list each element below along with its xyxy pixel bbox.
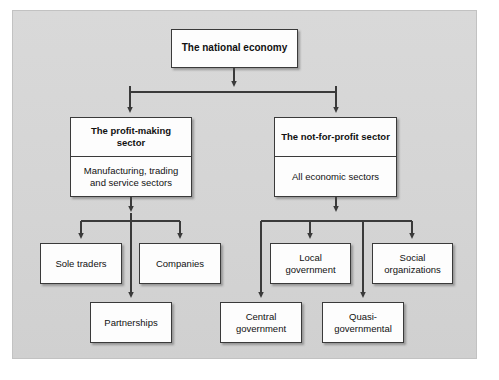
node-companies[interactable]: Companies <box>139 243 221 284</box>
node-partnerships[interactable]: Partnerships <box>90 302 172 343</box>
node-sole-traders-title: Sole traders <box>41 244 121 283</box>
node-sole-traders[interactable]: Sole traders <box>40 243 122 284</box>
node-local-government-title: Local government <box>271 244 350 283</box>
node-national-economy-title: The national economy <box>172 30 297 67</box>
node-notforprofit-sector-subtitle: All economic sectors <box>275 156 396 196</box>
diagram-root: The national economy The profit-making s… <box>0 0 499 380</box>
node-notforprofit-sector-title: The not-for-profit sector <box>275 118 396 156</box>
node-central-government-title: Central government <box>221 303 301 342</box>
node-quasi-governmental[interactable]: Quasi-governmental <box>322 302 404 343</box>
node-profit-sector-title: The profit-making sector <box>71 118 191 156</box>
node-companies-title: Companies <box>140 244 220 283</box>
node-social-organizations-title: Social organizations <box>373 244 452 283</box>
node-notforprofit-sector[interactable]: The not-for-profit sector All economic s… <box>274 117 397 197</box>
node-partnerships-title: Partnerships <box>91 303 171 342</box>
node-social-organizations[interactable]: Social organizations <box>372 243 453 284</box>
node-profit-sector[interactable]: The profit-making sector Manufacturing, … <box>70 117 192 197</box>
node-national-economy[interactable]: The national economy <box>171 29 298 68</box>
node-quasi-governmental-title: Quasi-governmental <box>323 303 403 342</box>
node-profit-sector-subtitle: Manufacturing, trading and service secto… <box>71 156 191 196</box>
node-local-government[interactable]: Local government <box>270 243 351 284</box>
node-central-government[interactable]: Central government <box>220 302 302 343</box>
